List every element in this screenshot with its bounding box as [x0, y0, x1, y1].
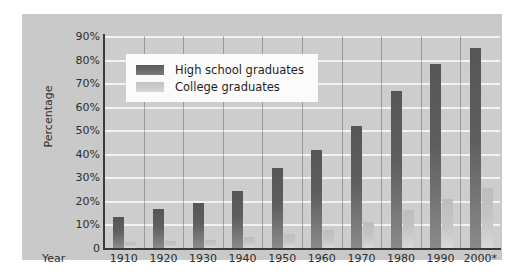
x-axis-tick-label: 1930 [189, 252, 217, 265]
x-axis-tick-label: 1990 [427, 252, 455, 265]
bar-college-1980 [403, 210, 414, 248]
x-axis-tick-label: 1980 [387, 252, 415, 265]
y-axis-tick-label: 90% [44, 30, 100, 43]
legend-label-high-school: High school graduates [175, 63, 304, 77]
y-axis-tick-label: 70% [44, 77, 100, 90]
y-axis-tick-label: 50% [44, 124, 100, 137]
x-axis-tick-label: 1920 [149, 252, 177, 265]
bar-college-1920 [165, 241, 176, 248]
legend-item-college: College graduates [136, 78, 304, 95]
chart-panel: Percentage 90%80%70%60%50%40%30%20%10%0 … [22, 14, 502, 260]
bar-college-1960 [323, 230, 334, 248]
legend-swatch-high-school-icon [136, 65, 164, 75]
bar-high-school-1970 [351, 126, 362, 248]
bar-high-school-1950 [272, 168, 283, 248]
x-axis-tick-label: 1960 [308, 252, 336, 265]
bar-college-1950 [284, 234, 295, 248]
bar-college-2000* [482, 188, 493, 248]
y-axis-tick-label: 40% [44, 147, 100, 160]
x-axis-tick-label: 1910 [110, 252, 138, 265]
y-axis-tick-label: 20% [44, 194, 100, 207]
x-axis-title: Year [42, 252, 65, 265]
bar-college-1940 [244, 237, 255, 248]
y-axis-ticks: 90%80%70%60%50%40%30%20%10%0 [36, 14, 100, 260]
legend-swatch-college-icon [136, 82, 164, 92]
bar-high-school-1960 [311, 150, 322, 248]
bar-high-school-1940 [232, 191, 243, 248]
bar-high-school-1980 [391, 91, 402, 248]
category-separator [342, 36, 343, 248]
y-axis-tick-label: 30% [44, 171, 100, 184]
chart-figure: Percentage 90%80%70%60%50%40%30%20%10%0 … [0, 0, 524, 274]
x-axis-tick-label: 1970 [347, 252, 375, 265]
x-axis-tick-label: 1950 [268, 252, 296, 265]
bar-high-school-1920 [153, 209, 164, 248]
category-separator [381, 36, 382, 248]
bar-college-1990 [442, 199, 453, 248]
legend-label-college: College graduates [175, 80, 280, 94]
x-axis-ticks: 1910192019301940195019601970198019902000… [104, 250, 500, 272]
y-axis-tick-label: 10% [44, 218, 100, 231]
category-separator [421, 36, 422, 248]
bar-college-1930 [205, 240, 216, 248]
bar-high-school-2000* [470, 48, 481, 248]
bar-high-school-1930 [193, 203, 204, 248]
y-axis-line [103, 34, 105, 250]
category-separator [460, 36, 461, 248]
bar-high-school-1990 [430, 64, 441, 248]
bar-high-school-1910 [113, 217, 124, 248]
x-axis-tick-label: 1940 [229, 252, 257, 265]
bar-college-1970 [363, 222, 374, 248]
legend-item-high-school: High school graduates [136, 61, 304, 78]
y-axis-tick-label: 80% [44, 53, 100, 66]
x-axis-tick-label: 2000* [463, 252, 497, 265]
y-axis-tick-label: 60% [44, 100, 100, 113]
chart-legend: High school graduates College graduates [126, 54, 318, 102]
